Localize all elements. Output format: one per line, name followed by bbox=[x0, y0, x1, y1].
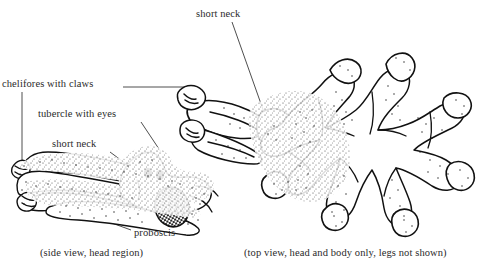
figure-container: chelifores with claws tubercle with eyes… bbox=[0, 0, 491, 265]
top-chelifore-lower bbox=[180, 120, 205, 142]
top-view-drawing bbox=[177, 53, 474, 236]
caption-side-view: (side view, head region) bbox=[40, 247, 143, 258]
label-short-neck-side-view: short neck bbox=[52, 138, 96, 150]
leg-stub-6 bbox=[322, 204, 349, 231]
leg-stub-4 bbox=[446, 162, 474, 191]
label-tubercle-with-eyes: tubercle with eyes bbox=[38, 108, 116, 120]
label-proboscis: proboscis bbox=[134, 227, 175, 239]
label-chelifores-with-claws: chelifores with claws bbox=[2, 78, 93, 90]
leg-stub-5 bbox=[392, 209, 419, 236]
side-view-drawing bbox=[10, 145, 225, 235]
leg-stub-3 bbox=[443, 93, 471, 118]
anatomy-line-drawing bbox=[0, 0, 491, 265]
top-chelifore-upper bbox=[177, 86, 205, 110]
label-short-neck-top-view: short neck bbox=[196, 8, 240, 20]
caption-top-view: (top view, head and body only, legs not … bbox=[244, 247, 447, 258]
